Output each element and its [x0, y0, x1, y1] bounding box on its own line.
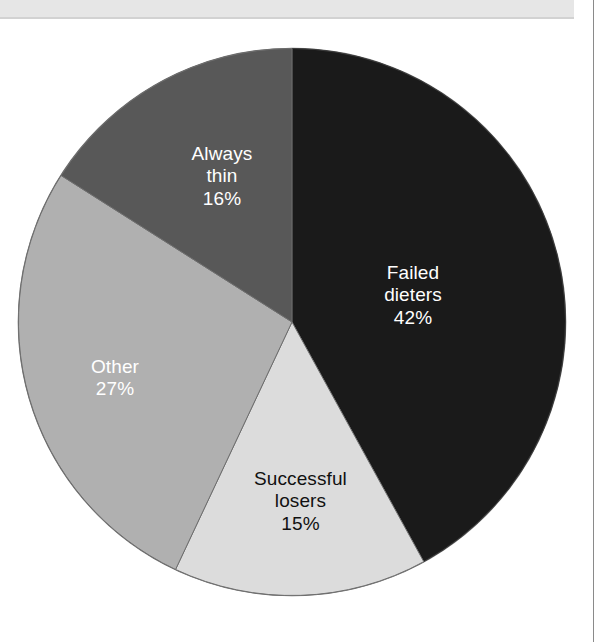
page-gutter-rule: [593, 0, 594, 642]
page-root: Failed dieters 42% Always thin 16% Other…: [0, 0, 608, 642]
page-top-band: [0, 0, 574, 17]
pie-chart-svg: [0, 19, 592, 642]
pie-chart: Failed dieters 42% Always thin 16% Other…: [0, 19, 592, 642]
